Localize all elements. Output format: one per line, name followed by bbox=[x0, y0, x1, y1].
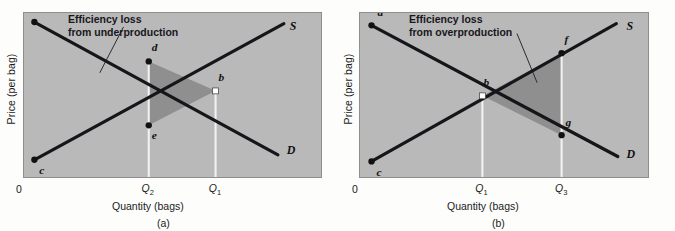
point-marker-a[interactable] bbox=[368, 22, 374, 28]
tick-base: Q bbox=[555, 182, 563, 194]
tick-base: Q bbox=[142, 182, 150, 194]
point-marker-c[interactable] bbox=[31, 157, 37, 163]
tick-subscript: 2 bbox=[150, 188, 154, 197]
point-marker-a[interactable] bbox=[31, 19, 37, 25]
y-axis-label-text-b: Price (per bag) bbox=[342, 54, 354, 125]
tick-base: Q bbox=[209, 182, 217, 194]
point-marker-g[interactable] bbox=[558, 132, 564, 138]
callout-line-1-a: Efficiency loss bbox=[68, 13, 178, 26]
point-label-b: b bbox=[483, 76, 489, 88]
panel-b: Price (per bag) DSabfgc Efficiency loss … bbox=[337, 0, 674, 231]
point-marker-c[interactable] bbox=[368, 158, 374, 164]
point-label-a: a bbox=[40, 13, 46, 15]
point-marker-d[interactable] bbox=[146, 58, 152, 64]
y-axis-title-a: Price (per bag) bbox=[0, 0, 22, 178]
x-tick-q3-b: Q3 bbox=[555, 183, 567, 197]
x-axis-title-b: Quantity (bags) bbox=[447, 201, 519, 212]
figure-container: Price (per bag) DSadbec Efficiency loss … bbox=[0, 0, 675, 231]
callout-underproduction: Efficiency loss from underproduction bbox=[68, 13, 178, 38]
curve-label-d: D bbox=[286, 143, 296, 157]
point-marker-b[interactable] bbox=[213, 88, 219, 94]
tick-subscript: 1 bbox=[483, 188, 487, 197]
point-marker-b[interactable] bbox=[479, 93, 485, 99]
point-marker-e[interactable] bbox=[146, 122, 152, 128]
point-label-c: c bbox=[376, 166, 381, 177]
x-tick-q1-a: Q1 bbox=[209, 183, 221, 197]
deadweight-loss-overproduction bbox=[482, 53, 561, 135]
panel-a: Price (per bag) DSadbec Efficiency loss … bbox=[0, 0, 337, 231]
tick-subscript: 3 bbox=[563, 188, 567, 197]
point-label-e: e bbox=[152, 129, 157, 141]
y-axis-title-b: Price (per bag) bbox=[337, 0, 359, 178]
callout-line-2-b: from overproduction bbox=[409, 26, 512, 39]
point-label-b: b bbox=[219, 71, 225, 83]
point-label-d: d bbox=[152, 41, 158, 53]
curve-label-s: S bbox=[626, 19, 633, 33]
point-label-a: a bbox=[377, 13, 383, 18]
panel-caption-a: (a) bbox=[157, 218, 170, 229]
x-tick-q1-b: Q1 bbox=[475, 183, 487, 197]
origin-label-b: 0 bbox=[352, 184, 358, 195]
callout-line-1-b: Efficiency loss bbox=[409, 13, 512, 26]
panel-caption-b: (b) bbox=[492, 218, 505, 229]
y-axis-label-text-a: Price (per bag) bbox=[5, 54, 17, 125]
tick-subscript: 1 bbox=[217, 188, 221, 197]
curve-label-d: D bbox=[625, 147, 635, 161]
callout-line-2-a: from underproduction bbox=[68, 26, 178, 39]
origin-label-a: 0 bbox=[16, 184, 22, 195]
x-tick-q2-a: Q2 bbox=[142, 183, 154, 197]
point-label-f: f bbox=[565, 33, 570, 45]
callout-overproduction: Efficiency loss from overproduction bbox=[409, 13, 512, 38]
point-label-c: c bbox=[39, 164, 44, 176]
curve-label-s: S bbox=[290, 19, 297, 33]
x-axis-title-a: Quantity (bags) bbox=[112, 201, 184, 212]
point-label-g: g bbox=[565, 116, 572, 128]
point-marker-f[interactable] bbox=[558, 50, 564, 56]
